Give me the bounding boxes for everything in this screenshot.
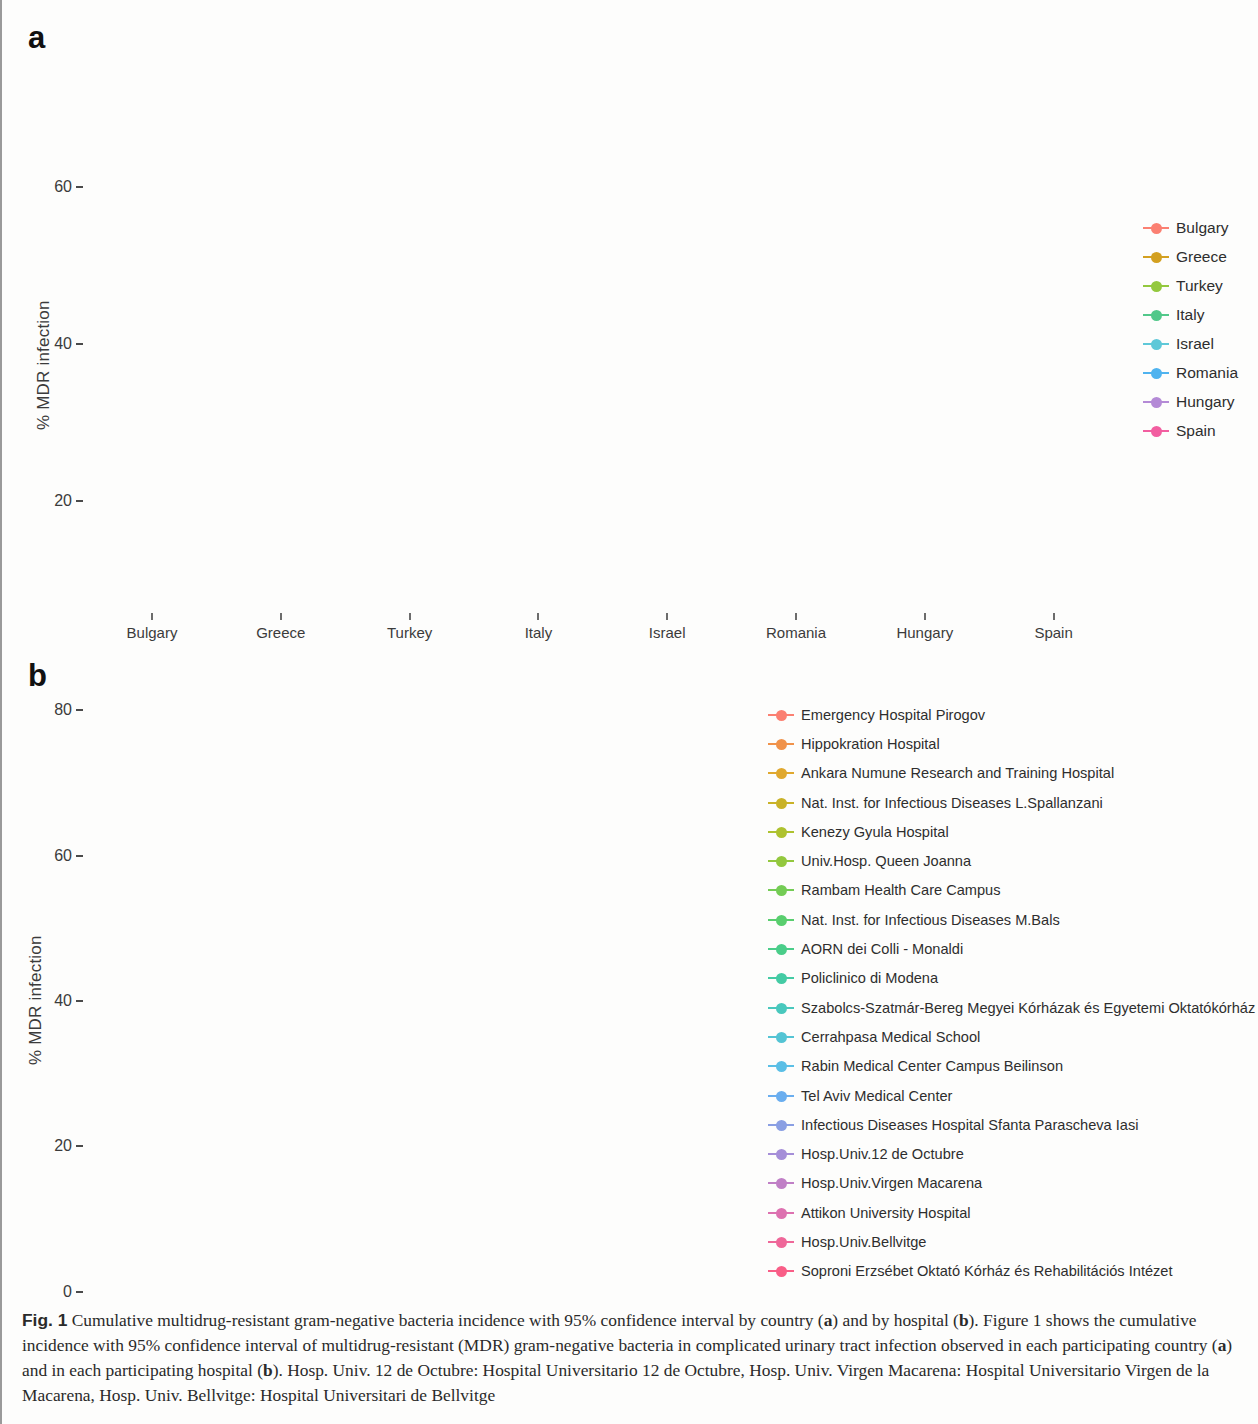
y-tick-label: 60 [26,847,72,865]
y-tick-label: 60 [26,178,72,196]
legend-item[interactable]: Hosp.Univ.Bellvitge [768,1227,1255,1256]
legend-item-label: Bulgary [1176,219,1229,237]
legend-item[interactable]: Nat. Inst. for Infectious Diseases M.Bal… [768,905,1255,934]
legend-item-label: Greece [1176,248,1227,266]
y-tick-mark [76,855,83,857]
legend-item-label: Hosp.Univ.12 de Octubre [801,1146,964,1162]
legend-item[interactable]: Cerrahpasa Medical School [768,1022,1255,1051]
caption-text-2: ) and by hospital ( [832,1310,959,1330]
legend-item-label: Rambam Health Care Campus [801,882,1001,898]
legend-item-label: Univ.Hosp. Queen Joanna [801,853,971,869]
legend-item[interactable]: Emergency Hospital Pirogov [768,700,1255,729]
legend-item[interactable]: Soproni Erzsébet Oktató Kórház és Rehabi… [768,1257,1255,1286]
legend-item-label: Emergency Hospital Pirogov [801,707,985,723]
legend-item-label: Romania [1176,364,1238,382]
page-left-rule [0,0,2,1424]
x-tick-label: Romania [766,624,826,641]
x-tick-label: Italy [525,624,553,641]
y-tick-label: 0 [26,1283,72,1301]
y-tick-mark [76,186,83,188]
legend-item[interactable]: Nat. Inst. for Infectious Diseases L.Spa… [768,788,1255,817]
legend-swatch-icon [1143,280,1169,292]
legend-swatch-icon [768,1119,794,1131]
legend-item[interactable]: Hosp.Univ.Virgen Macarena [768,1169,1255,1198]
x-tick-mark [924,613,926,620]
legend-item-label: Hippokration Hospital [801,736,940,752]
legend-item-label: Szabolcs-Szatmár-Bereg Megyei Kórházak é… [801,1000,1255,1016]
legend-item-label: Turkey [1176,277,1223,295]
y-tick-label: 40 [26,335,72,353]
legend-item[interactable]: Greece [1143,242,1238,271]
legend-item-label: Kenezy Gyula Hospital [801,824,949,840]
legend-item[interactable]: Univ.Hosp. Queen Joanna [768,846,1255,875]
y-tick-label: 20 [26,492,72,510]
legend-swatch-icon [1143,309,1169,321]
panel-a-y-axis-label: % MDR infection [34,300,54,430]
legend-item-label: Cerrahpasa Medical School [801,1029,980,1045]
legend-swatch-icon [768,1265,794,1277]
legend-item-label: AORN dei Colli - Monaldi [801,941,963,957]
legend-item[interactable]: Kenezy Gyula Hospital [768,817,1255,846]
legend-item[interactable]: Israel [1143,329,1238,358]
y-tick-mark [76,1145,83,1147]
legend-item[interactable]: Policlinico di Modena [768,964,1255,993]
panel-a-legend: BulgaryGreeceTurkeyItalyIsraelRomaniaHun… [1143,213,1238,445]
legend-swatch-icon [1143,251,1169,263]
legend-item[interactable]: Italy [1143,300,1238,329]
legend-item[interactable]: Hungary [1143,387,1238,416]
x-tick-label: Turkey [387,624,432,641]
y-tick-mark [76,343,83,345]
x-tick-mark [795,613,797,620]
legend-item[interactable]: Hosp.Univ.12 de Octubre [768,1139,1255,1168]
legend-item-label: Ankara Numune Research and Training Hosp… [801,765,1114,781]
panel-b-letter: b [28,658,47,694]
legend-item-label: Hosp.Univ.Virgen Macarena [801,1175,982,1191]
legend-swatch-icon [768,738,794,750]
legend-swatch-icon [768,1090,794,1102]
legend-item-label: Nat. Inst. for Infectious Diseases M.Bal… [801,912,1060,928]
legend-swatch-icon [768,1148,794,1160]
y-tick-mark [76,709,83,711]
legend-item-label: Nat. Inst. for Infectious Diseases L.Spa… [801,795,1103,811]
x-tick-label: Greece [256,624,305,641]
legend-swatch-icon [768,1236,794,1248]
x-tick-mark [1053,613,1055,620]
legend-item[interactable]: Bulgary [1143,213,1238,242]
legend-item-label: Rabin Medical Center Campus Beilinson [801,1058,1063,1074]
legend-item[interactable]: Tel Aviv Medical Center [768,1081,1255,1110]
x-tick-mark [409,613,411,620]
legend-item[interactable]: Szabolcs-Szatmár-Bereg Megyei Kórházak é… [768,993,1255,1022]
legend-swatch-icon [768,797,794,809]
legend-item[interactable]: Infectious Diseases Hospital Sfanta Para… [768,1110,1255,1139]
legend-item[interactable]: Hippokration Hospital [768,729,1255,758]
legend-item[interactable]: Rambam Health Care Campus [768,876,1255,905]
legend-item-label: Israel [1176,335,1214,353]
caption-figure-label: Fig. 1 [22,1310,67,1330]
caption-text-1: Cumulative multidrug-resistant gram-nega… [67,1310,823,1330]
legend-swatch-icon [1143,222,1169,234]
legend-item[interactable]: Attikon University Hospital [768,1198,1255,1227]
legend-item[interactable]: Turkey [1143,271,1238,300]
x-tick-mark [151,613,153,620]
legend-swatch-icon [768,855,794,867]
legend-swatch-icon [1143,338,1169,350]
legend-item-label: Infectious Diseases Hospital Sfanta Para… [801,1117,1138,1133]
figure-caption: Fig. 1 Cumulative multidrug-resistant gr… [22,1308,1248,1408]
legend-item[interactable]: Spain [1143,416,1238,445]
legend-item[interactable]: AORN dei Colli - Monaldi [768,934,1255,963]
legend-swatch-icon [768,709,794,721]
legend-item[interactable]: Romania [1143,358,1238,387]
legend-swatch-icon [768,972,794,984]
legend-swatch-icon [768,1060,794,1072]
legend-item[interactable]: Ankara Numune Research and Training Hosp… [768,759,1255,788]
legend-item-label: Hosp.Univ.Bellvitge [801,1234,926,1250]
legend-item-label: Italy [1176,306,1204,324]
legend-swatch-icon [768,1177,794,1189]
legend-swatch-icon [768,943,794,955]
legend-item[interactable]: Rabin Medical Center Campus Beilinson [768,1052,1255,1081]
caption-ref-b2: b [263,1360,273,1380]
legend-swatch-icon [768,767,794,779]
legend-item-label: Policlinico di Modena [801,970,938,986]
legend-swatch-icon [768,1002,794,1014]
y-tick-mark [76,1291,83,1293]
